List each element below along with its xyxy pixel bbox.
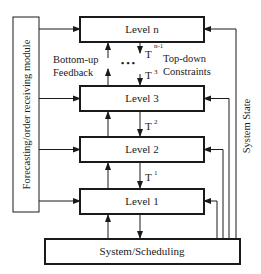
level-3-box: Level 3 bbox=[80, 86, 204, 111]
forecasting-module-label: Forecasting/order receiving module bbox=[21, 39, 32, 189]
transfer-label-tn-1: T n-1 bbox=[145, 42, 164, 60]
svg-text:T: T bbox=[145, 120, 152, 132]
forecasting-module-box: Forecasting/order receiving module bbox=[13, 17, 39, 212]
feedback-label: Feedback bbox=[53, 67, 94, 78]
svg-text:1: 1 bbox=[154, 169, 158, 177]
transfer-label-t1: T 1 bbox=[145, 169, 158, 183]
hierarchy-diagram: Forecasting/order receiving module Level… bbox=[0, 0, 261, 274]
svg-text:n-1: n-1 bbox=[154, 42, 164, 50]
top-down-label: Top-down bbox=[163, 53, 207, 64]
level-1-label: Level 1 bbox=[125, 195, 158, 207]
system-state-label: System State bbox=[241, 98, 252, 153]
constraints-label: Constraints bbox=[163, 66, 211, 77]
svg-text:3: 3 bbox=[154, 68, 158, 76]
svg-text:2: 2 bbox=[154, 118, 158, 126]
level-n-label: Level n bbox=[125, 23, 159, 35]
bottom-up-label: Bottom-up bbox=[53, 54, 99, 65]
level-1-box: Level 1 bbox=[80, 189, 204, 214]
transfer-label-t3: T 3 bbox=[145, 68, 158, 81]
system-scheduling-label: System/Scheduling bbox=[100, 245, 185, 257]
level-n-box: Level n bbox=[80, 17, 204, 42]
system-state-lines bbox=[204, 29, 236, 239]
system-scheduling-box: System/Scheduling bbox=[45, 239, 240, 264]
level-3-label: Level 3 bbox=[125, 92, 159, 104]
level-2-label: Level 2 bbox=[125, 143, 158, 155]
svg-text:T: T bbox=[145, 48, 152, 60]
ellipsis-dots: • • • bbox=[121, 58, 135, 68]
transfer-label-t2: T 2 bbox=[145, 118, 158, 132]
level-2-box: Level 2 bbox=[80, 137, 204, 162]
svg-text:T: T bbox=[145, 69, 152, 81]
svg-text:T: T bbox=[145, 171, 152, 183]
